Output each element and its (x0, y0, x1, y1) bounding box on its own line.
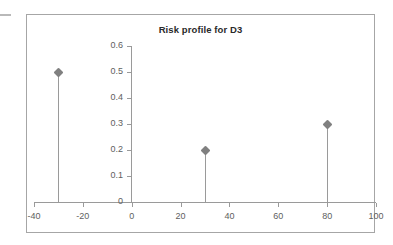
edge-artifact (0, 14, 11, 16)
y-tick (127, 98, 131, 99)
y-tick (127, 124, 131, 125)
y-tick-label: 0 (85, 196, 123, 206)
x-tick-label: -20 (63, 211, 103, 221)
x-tick (376, 203, 377, 207)
y-tick (127, 46, 131, 47)
x-tick (132, 203, 133, 207)
y-tick (127, 176, 131, 177)
x-tick-label: 100 (356, 211, 393, 221)
chart-frame: Risk profile for D3 -40-20020406080100 0… (26, 14, 375, 233)
y-tick-label: 0.5 (85, 66, 123, 76)
y-tick-label: 0.3 (85, 118, 123, 128)
y-tick (127, 202, 131, 203)
stem-line (58, 72, 59, 202)
plot-area: -40-20020406080100 00.10.20.30.40.50.6 (27, 15, 374, 232)
x-tick-label: -40 (14, 211, 54, 221)
x-tick (229, 203, 230, 207)
y-tick-label: 0.1 (85, 170, 123, 180)
stem-line (327, 124, 328, 202)
chart-canvas: Risk profile for D3 -40-20020406080100 0… (0, 0, 393, 245)
x-tick (327, 203, 328, 207)
y-axis-line (131, 46, 132, 203)
y-tick-label: 0.6 (85, 40, 123, 50)
data-point-marker (53, 67, 63, 77)
x-tick (83, 203, 84, 207)
stem-line (205, 150, 206, 202)
y-tick (127, 150, 131, 151)
x-tick-label: 40 (209, 211, 249, 221)
y-tick-label: 0.2 (85, 144, 123, 154)
data-point-marker (200, 145, 210, 155)
x-tick-label: 20 (161, 211, 201, 221)
x-tick-label: 0 (112, 211, 152, 221)
x-tick-label: 80 (307, 211, 347, 221)
x-tick (34, 203, 35, 207)
y-tick-label: 0.4 (85, 92, 123, 102)
x-tick-label: 60 (258, 211, 298, 221)
y-tick (127, 72, 131, 73)
x-tick (278, 203, 279, 207)
data-point-marker (322, 119, 332, 129)
x-tick (181, 203, 182, 207)
